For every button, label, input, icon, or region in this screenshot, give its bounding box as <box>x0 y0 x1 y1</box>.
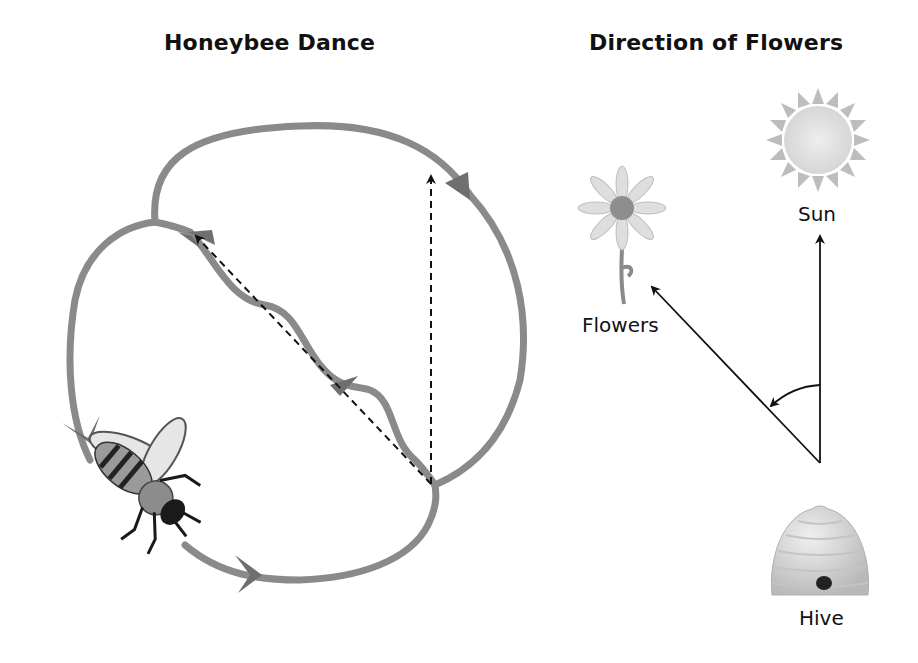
flower-icon <box>578 166 666 304</box>
bee-icon <box>49 376 246 571</box>
sun-icon <box>766 88 870 192</box>
flowers-label: Flowers <box>582 313 659 337</box>
diagonal-dashed-arrow <box>196 236 431 484</box>
flower-direction-arrow <box>652 287 820 463</box>
angle-arc-arrow <box>771 385 820 406</box>
direction-lines <box>652 236 820 463</box>
diagram-canvas <box>0 0 918 663</box>
sun-label: Sun <box>798 202 836 226</box>
hive-label: Hive <box>799 606 844 630</box>
hive-icon <box>771 506 868 595</box>
dance-path <box>70 126 523 580</box>
